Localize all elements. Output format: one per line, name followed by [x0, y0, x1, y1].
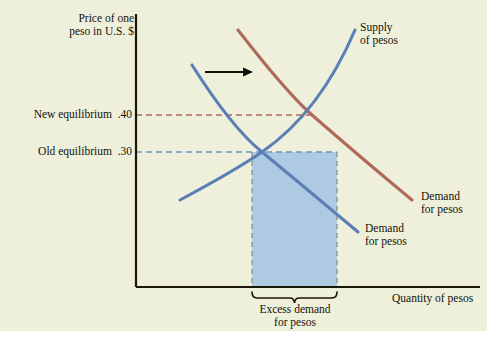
supply-of-pesos-label: Supply of pesos: [360, 21, 398, 47]
excess-demand-label: Excess demand for pesos: [235, 303, 355, 329]
x-axis-label: Quantity of pesos: [392, 292, 473, 305]
excess-demand-region: [252, 152, 337, 287]
demand-for-pesos-old-label: Demand for pesos: [365, 222, 407, 248]
shift-right-arrow: [205, 68, 253, 77]
y-axis-label: Price of one peso in U.S. $: [48, 12, 134, 38]
demand-for-pesos-new-label: Demand for pesos: [421, 190, 463, 216]
excess-demand-brace: [252, 292, 337, 303]
old-equilibrium-tick-label: Old equilibrium .30: [12, 145, 132, 158]
old-equilibrium-value: .30: [118, 145, 132, 157]
new-equilibrium-tick-label: New equilibrium .40: [12, 108, 132, 121]
new-equilibrium-value: .40: [118, 108, 132, 120]
new-equilibrium-text: New equilibrium: [34, 108, 112, 120]
old-equilibrium-text: Old equilibrium: [38, 145, 112, 157]
figure-container: Price of one peso in U.S. $ Quantity of …: [0, 0, 500, 344]
